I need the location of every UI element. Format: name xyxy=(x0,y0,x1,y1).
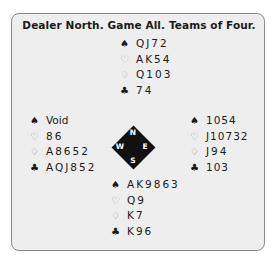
spade-icon: ♠ xyxy=(120,36,136,52)
east-clubs: 103 xyxy=(206,161,229,173)
north-clubs: 74 xyxy=(136,84,153,96)
spade-icon: ♠ xyxy=(190,113,206,129)
club-icon: ♣ xyxy=(111,224,127,240)
club-icon: ♣ xyxy=(30,160,46,176)
diamond-icon: ♢ xyxy=(190,144,206,160)
hand-north: ♠QJ72 ♡AK54 ♢Q103 ♣74 xyxy=(120,36,172,98)
south-spades: AK9863 xyxy=(127,178,180,190)
spade-icon: ♠ xyxy=(111,177,127,193)
north-hearts: AK54 xyxy=(136,53,171,65)
hand-west: ♠Void ♡86 ♢A8652 ♣AQJ852 xyxy=(30,113,96,175)
heart-icon: ♡ xyxy=(111,193,127,209)
club-icon: ♣ xyxy=(190,160,206,176)
east-spades: 1054 xyxy=(206,114,237,126)
diamond-icon: ♢ xyxy=(120,67,136,83)
north-diamonds: Q103 xyxy=(136,68,172,80)
north-spades: QJ72 xyxy=(136,37,169,49)
club-icon: ♣ xyxy=(120,83,136,99)
compass-north: N xyxy=(128,128,138,137)
south-hearts: Q9 xyxy=(127,194,146,206)
south-diamonds: K7 xyxy=(127,209,145,221)
compass-east: E xyxy=(140,142,150,151)
diamond-icon: ♢ xyxy=(30,144,46,160)
spade-icon: ♠ xyxy=(30,113,46,129)
compass-south: S xyxy=(128,156,138,165)
diamond-icon: ♢ xyxy=(111,208,127,224)
deal-title: Dealer North. Game All. Teams of Four. xyxy=(0,19,278,31)
west-hearts: 86 xyxy=(46,130,63,142)
heart-icon: ♡ xyxy=(190,129,206,145)
heart-icon: ♡ xyxy=(30,129,46,145)
hand-south: ♠AK9863 ♡Q9 ♢K7 ♣K96 xyxy=(111,177,180,239)
east-hearts: J10732 xyxy=(206,130,249,142)
east-diamonds: J94 xyxy=(206,145,228,157)
west-diamonds: A8652 xyxy=(46,145,90,157)
south-clubs: K96 xyxy=(127,225,153,237)
west-spades: Void xyxy=(46,114,68,126)
heart-icon: ♡ xyxy=(120,52,136,68)
hand-east: ♠1054 ♡J10732 ♢J94 ♣103 xyxy=(190,113,249,175)
west-clubs: AQJ852 xyxy=(46,161,96,173)
compass-west: W xyxy=(115,142,125,151)
